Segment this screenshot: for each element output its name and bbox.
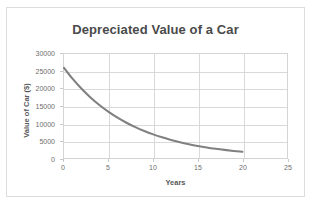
x-axis-tick-label: 10	[138, 164, 168, 171]
y-axis-tick-label: 30000	[7, 50, 55, 57]
y-axis-tick-label: 20000	[7, 85, 55, 92]
x-axis-tick-mark	[243, 159, 244, 162]
y-axis-tick-label: 0	[7, 156, 55, 163]
y-axis-tick-label: 25000	[7, 67, 55, 74]
x-axis-tick-mark	[63, 159, 64, 162]
x-axis-tick-mark	[108, 159, 109, 162]
chart-container: Depreciated Value of a Car Value of Car …	[6, 7, 305, 197]
chart-title: Depreciated Value of a Car	[7, 22, 304, 37]
depreciation-curve	[64, 54, 287, 158]
y-axis-tick-label: 15000	[7, 103, 55, 110]
x-axis-tick-label: 5	[93, 164, 123, 171]
x-axis-tick-mark	[288, 159, 289, 162]
x-axis-title: Years	[63, 178, 288, 187]
y-axis-tick-label: 10000	[7, 120, 55, 127]
y-axis-tick-label: 5000	[7, 138, 55, 145]
x-axis-tick-label: 20	[228, 164, 258, 171]
x-axis-tick-mark	[153, 159, 154, 162]
x-axis-tick-label: 0	[48, 164, 78, 171]
x-axis-tick-mark	[198, 159, 199, 162]
plot-area	[63, 53, 288, 159]
x-axis-tick-label: 15	[183, 164, 213, 171]
x-axis-tick-label: 25	[273, 164, 303, 171]
